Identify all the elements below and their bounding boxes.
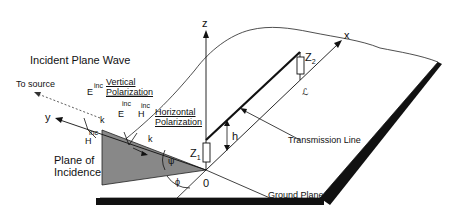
to-source-label: To source [16, 80, 55, 89]
z-axis-label: z [202, 18, 208, 29]
title: Incident Plane Wave [30, 55, 130, 66]
ground-plane-label: Ground Plane [268, 191, 324, 200]
z2-load [297, 57, 304, 74]
plane-of-incidence-label-2: Incidence [54, 167, 101, 178]
k-horizontal-label: k [148, 135, 153, 144]
transmission-line-conductor [206, 52, 300, 140]
ground-plane-pointer [206, 170, 270, 198]
x-axis-label: x [344, 30, 350, 41]
transmission-line-label: Transmission Line [288, 136, 361, 145]
vertical-polarization-label-1: Vertical [106, 78, 136, 87]
length-label: ℒ [302, 88, 308, 97]
inc-superscript: inc [89, 129, 98, 136]
e-inc-vertical-label: E [87, 88, 93, 97]
inc-superscript: inc [94, 82, 103, 89]
z-axis-arrow-icon [203, 30, 209, 38]
origin-label: 0 [203, 178, 209, 189]
x-axis [206, 44, 338, 170]
k-vertical-label: k [100, 116, 105, 125]
horizontal-polarization-label-2: Polarization [155, 118, 202, 127]
h-label: h [232, 131, 238, 142]
ground-plane-edge-right [320, 62, 442, 205]
inc-superscript: inc [122, 100, 131, 107]
psi-label: ψ [168, 157, 174, 166]
plane-of-incidence-label-1: Plane of [54, 155, 94, 166]
y-axis-arrow-icon [55, 117, 63, 123]
horizontal-polarization-label-1: Horizontal [155, 108, 196, 117]
z1-label: Z1 [190, 148, 201, 161]
h-inc-horizontal-label: H [138, 110, 145, 119]
e-inc-horizontal-label: E [118, 110, 124, 119]
transmission-line-diagram: Incident Plane Wave To source Vertical P… [0, 0, 450, 223]
y-axis-label: y [45, 112, 51, 123]
z1-load [203, 143, 210, 162]
phi-label: ϕ [175, 178, 180, 187]
h-inc-vertical-label: H [85, 137, 92, 146]
inc-superscript: inc [141, 102, 150, 109]
z2-label: Z2 [305, 52, 316, 65]
to-source-arrow-icon [34, 92, 41, 97]
vertical-polarization-label-2: Polarization [106, 88, 153, 97]
diagram-graphics [0, 0, 450, 223]
